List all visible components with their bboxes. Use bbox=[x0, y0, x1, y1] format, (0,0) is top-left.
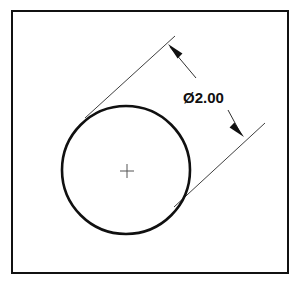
sheet-background bbox=[0, 0, 305, 286]
drawing-canvas: Ø2.00 bbox=[0, 0, 305, 286]
technical-drawing-sheet: Ø2.00 bbox=[0, 0, 305, 286]
diameter-dimension-label: Ø2.00 bbox=[183, 89, 224, 106]
